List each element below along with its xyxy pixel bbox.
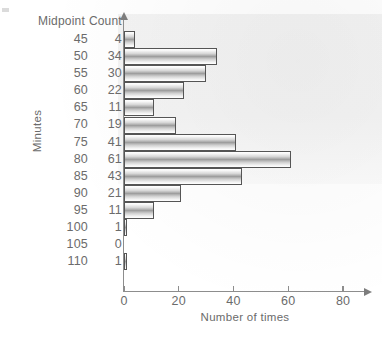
- histogram-bar: [124, 219, 127, 236]
- table-row: 8061: [36, 151, 122, 168]
- table-row: 5530: [36, 65, 122, 82]
- column-header-midpoint: Midpoint: [36, 14, 89, 29]
- cell-count: 1: [88, 253, 122, 270]
- cell-midpoint: 90: [36, 185, 88, 202]
- cell-midpoint: 85: [36, 168, 88, 185]
- cell-midpoint: 110: [36, 253, 88, 270]
- table-row: 1001: [36, 219, 122, 236]
- cell-count: 61: [88, 151, 122, 168]
- table-row: 9511: [36, 202, 122, 219]
- table-body: 4545034553060226511701975418061854390219…: [36, 31, 122, 270]
- cell-count: 19: [88, 116, 122, 133]
- table-row: 454: [36, 31, 122, 48]
- table-row: 6022: [36, 82, 122, 99]
- x-axis-line: [123, 291, 365, 292]
- cell-count: 22: [88, 82, 122, 99]
- histogram-bar: [124, 99, 154, 116]
- cell-count: 1: [88, 219, 122, 236]
- histogram-bar: [124, 202, 154, 219]
- cell-midpoint: 45: [36, 31, 88, 48]
- cell-midpoint: 105: [36, 236, 88, 253]
- cell-count: 11: [88, 202, 122, 219]
- x-axis-arrow-icon: [364, 288, 372, 296]
- histogram-bar: [124, 48, 217, 65]
- cell-midpoint: 80: [36, 151, 88, 168]
- table-row: 9021: [36, 185, 122, 202]
- data-table: Midpoint Count 4545034553060226511701975…: [36, 14, 122, 270]
- table-row: 7019: [36, 116, 122, 133]
- x-axis-tick: [178, 286, 179, 293]
- cell-count: 21: [88, 185, 122, 202]
- x-axis-tick-label: 60: [268, 294, 308, 308]
- cell-midpoint: 95: [36, 202, 88, 219]
- x-axis-tick-label: 20: [159, 294, 199, 308]
- x-axis-tick: [288, 286, 289, 293]
- cell-count: 0: [88, 236, 122, 253]
- x-axis-tick: [123, 286, 124, 293]
- cell-count: 30: [88, 65, 122, 82]
- x-axis-tick-label: 80: [323, 294, 363, 308]
- table-row: 1050: [36, 236, 122, 253]
- table-row: 6511: [36, 99, 122, 116]
- cell-count: 43: [88, 168, 122, 185]
- histogram-bar: [124, 65, 206, 82]
- cell-count: 11: [88, 99, 122, 116]
- x-axis-tick-label: 0: [104, 294, 144, 308]
- cell-midpoint: 60: [36, 82, 88, 99]
- cell-count: 4: [88, 31, 122, 48]
- histogram-bar: [124, 253, 127, 270]
- y-axis-arrow-icon: [120, 12, 128, 20]
- table-row: 5034: [36, 48, 122, 65]
- x-axis-tick-label: 40: [214, 294, 254, 308]
- cell-midpoint: 55: [36, 65, 88, 82]
- cell-midpoint: 65: [36, 99, 88, 116]
- histogram-bar: [124, 168, 242, 185]
- cell-count: 41: [88, 134, 122, 151]
- histogram-bar: [124, 185, 181, 202]
- cell-midpoint: 75: [36, 134, 88, 151]
- cell-midpoint: 70: [36, 116, 88, 133]
- page-corner-artifact: [2, 8, 9, 12]
- x-axis-title: Number of times: [120, 311, 370, 323]
- column-header-count: Count: [89, 14, 122, 29]
- histogram-bar: [124, 82, 184, 99]
- cell-midpoint: 50: [36, 48, 88, 65]
- x-axis-tick: [233, 286, 234, 293]
- table-row: 8543: [36, 168, 122, 185]
- cell-count: 34: [88, 48, 122, 65]
- histogram-bar: [124, 117, 176, 134]
- histogram-bar: [124, 31, 135, 48]
- table-row: 1101: [36, 253, 122, 270]
- cell-midpoint: 100: [36, 219, 88, 236]
- x-axis-tick: [342, 286, 343, 293]
- histogram-bar: [124, 151, 291, 168]
- histogram-bar: [124, 134, 236, 151]
- table-header-row: Midpoint Count: [36, 14, 122, 29]
- table-row: 7541: [36, 134, 122, 151]
